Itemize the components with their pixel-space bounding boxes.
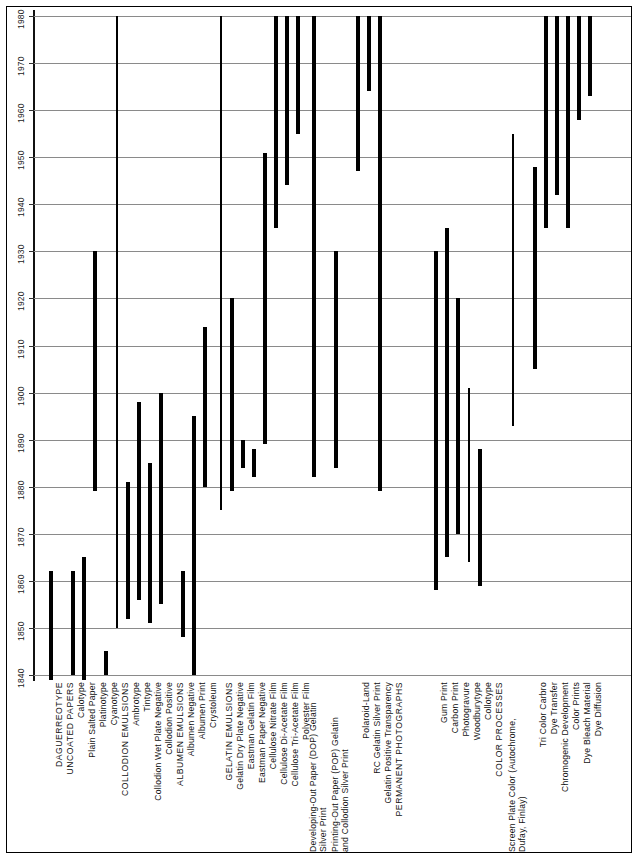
gridline xyxy=(34,16,631,17)
category-label: Tintype xyxy=(142,682,152,712)
y-axis-tick xyxy=(29,440,34,441)
y-axis-tick xyxy=(29,251,34,252)
timeline-bar xyxy=(159,393,163,605)
category-label-line: Printing-Out Paper (POP) Gelatin xyxy=(330,682,340,852)
category-label: Polaroid-Land xyxy=(361,682,371,739)
category-label-line: Silver Print xyxy=(318,682,328,852)
timeline-bar xyxy=(126,482,130,619)
category-label: Albumen Negative xyxy=(186,682,196,756)
category-label: Developing-Out Paper (DOP) GelatinSilver… xyxy=(308,682,328,852)
gridline xyxy=(34,675,631,676)
gridline xyxy=(34,581,631,582)
category-label: Color Prints xyxy=(571,682,581,730)
y-axis-tick-label: 1940 xyxy=(16,198,26,218)
category-label: RC Gelatin Silver Print xyxy=(372,682,382,774)
timeline-bar xyxy=(285,16,289,185)
timeline-bar xyxy=(356,16,360,171)
category-label-line: Developing-Out Paper (DOP) Gelatin xyxy=(308,682,318,852)
y-axis-tick-label: 1970 xyxy=(16,56,26,76)
category-label: Cellulose Di-Acetate Film xyxy=(279,682,289,785)
y-axis-tick-label: 1890 xyxy=(16,433,26,453)
timeline-bar xyxy=(93,251,97,491)
category-label-line: Screen Plate Color (Autochrome, xyxy=(507,682,517,852)
category-label: Gelatin Dry Plate Negative xyxy=(235,682,245,790)
timeline-bar xyxy=(445,228,449,558)
timeline-bar xyxy=(252,449,256,477)
category-label: Photogravure xyxy=(461,682,471,737)
y-axis-tick xyxy=(29,63,34,64)
gridline xyxy=(34,298,631,299)
timeline-bar xyxy=(334,251,338,468)
y-axis-tick-label: 1900 xyxy=(16,386,26,406)
category-label: COLOR PROCESSES xyxy=(494,682,504,777)
timeline-bar xyxy=(312,16,316,477)
gridline xyxy=(34,63,631,64)
category-label: Eastman Gelatin Film xyxy=(246,682,256,769)
y-axis-tick xyxy=(29,628,34,629)
category-labels: DAGUERREOTYPEUNCOATED PAPERSCalotypePlai… xyxy=(34,682,631,854)
category-label: Crystoleum xyxy=(208,682,218,728)
category-label: Dye Transfer xyxy=(549,682,559,734)
timeline-bar xyxy=(555,16,559,195)
y-axis-tick-label: 1920 xyxy=(16,292,26,312)
timeline-bar xyxy=(104,651,108,675)
y-axis-tick-label: 1850 xyxy=(16,621,26,641)
timeline-figure: 1840185018601870188018901900191019201930… xyxy=(0,0,638,859)
category-label: Calotype xyxy=(76,682,86,718)
category-label: Albumen Print xyxy=(197,682,207,739)
timeline-bar xyxy=(230,298,234,491)
category-label: Cyanotype xyxy=(109,682,119,725)
timeline-bar xyxy=(588,16,592,96)
y-axis-tick xyxy=(29,675,34,676)
category-label: Carbon Print xyxy=(450,682,460,733)
y-axis-tick-label: 1840 xyxy=(16,668,26,688)
y-axis-tick-label: 1860 xyxy=(16,574,26,594)
timeline-bar xyxy=(203,327,207,487)
category-label: PERMANENT PHOTOGRAPHS xyxy=(394,682,404,816)
gridline xyxy=(34,110,631,111)
category-label: GELATIN EMULSIONS xyxy=(224,682,234,781)
category-label: ALBUMEN EMULSIONS xyxy=(175,682,185,786)
category-label: Gelatin Positive Transparency xyxy=(383,682,393,803)
timeline-bar xyxy=(566,16,570,228)
y-axis-tick-label: 1980 xyxy=(16,9,26,29)
category-label: Printing-Out Paper (POP) Gelatinand Coll… xyxy=(330,682,350,852)
y-axis-tick-label: 1930 xyxy=(16,245,26,265)
category-label: COLLODION EMULSIONS xyxy=(120,682,130,796)
gridline xyxy=(34,628,631,629)
y-axis-tick-label: 1910 xyxy=(16,339,26,359)
y-axis-tick xyxy=(29,346,34,347)
category-label: Dye Bleach Material xyxy=(582,682,592,764)
timeline-bar xyxy=(296,16,300,134)
timeline-bar xyxy=(544,16,548,228)
timeline-bar xyxy=(478,449,482,586)
timeline-bar xyxy=(192,416,196,675)
category-label: Woodburytype xyxy=(472,682,482,740)
timeline-bar xyxy=(241,440,245,468)
timeline-bar xyxy=(181,571,185,637)
timeline-bar xyxy=(434,251,438,590)
category-label: Ambrotype xyxy=(131,682,141,726)
y-axis-tick-label: 1960 xyxy=(16,103,26,123)
y-axis-tick-label: 1880 xyxy=(16,480,26,500)
category-label: Collotype xyxy=(483,682,493,720)
category-label: Chromogenic Development xyxy=(560,682,570,792)
gridline xyxy=(34,440,631,441)
gridline xyxy=(34,251,631,252)
category-label: Platinotype xyxy=(98,682,108,727)
gridline xyxy=(34,346,631,347)
y-axis-tick xyxy=(29,157,34,158)
timeline-bar xyxy=(116,16,117,628)
category-label: Tri Color Carbro xyxy=(538,682,548,747)
timeline-bar xyxy=(367,16,371,91)
plot-area xyxy=(34,16,631,675)
category-label-line: and Collodion Silver Print xyxy=(340,682,350,852)
category-label: Cellulose Tri-Acetate Film xyxy=(290,682,300,786)
timeline-bar xyxy=(82,557,86,679)
timeline-bar xyxy=(533,167,537,369)
timeline-bar xyxy=(148,463,152,623)
category-label: Plain Salted Paper xyxy=(87,682,97,758)
y-axis-tick-label: 1870 xyxy=(16,527,26,547)
timeline-bar xyxy=(577,16,581,120)
y-axis-tick xyxy=(29,534,34,535)
